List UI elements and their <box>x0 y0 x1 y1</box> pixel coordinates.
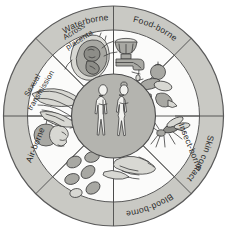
transmission-wheel-diagram: Waterborne Food-borne Insect-borne Skin … <box>0 0 227 233</box>
center-circle <box>72 74 156 158</box>
wheel-canvas: Waterborne Food-borne Insect-borne Skin … <box>0 0 227 233</box>
center-hub <box>72 74 156 158</box>
